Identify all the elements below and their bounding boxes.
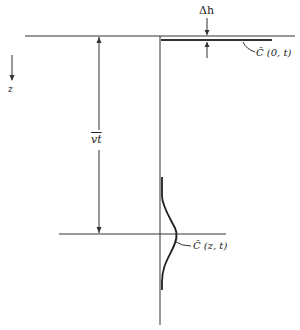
delta-h-label: Δh [199, 5, 214, 16]
concentration-profile-label: C̃ (z, t) [193, 241, 227, 251]
surface-concentration-leader [243, 42, 255, 52]
diagram-svg [0, 0, 300, 330]
delta-h-arrowhead-bottom [205, 42, 210, 47]
vt-arrowhead-top [97, 37, 102, 43]
diagram-canvas: Δh C̃ (0, t) vt z C̃ (z, t) [0, 0, 300, 330]
profile-concentration-leader [176, 242, 191, 246]
z-axis-arrowhead [10, 75, 15, 81]
advection-distance-label: vt [91, 134, 102, 145]
delta-h-arrowhead-top [205, 30, 210, 35]
surface-concentration-label: C̃ (0, t) [256, 48, 291, 58]
vt-arrowhead-bottom [97, 227, 102, 233]
depth-axis-label: z [8, 85, 13, 94]
